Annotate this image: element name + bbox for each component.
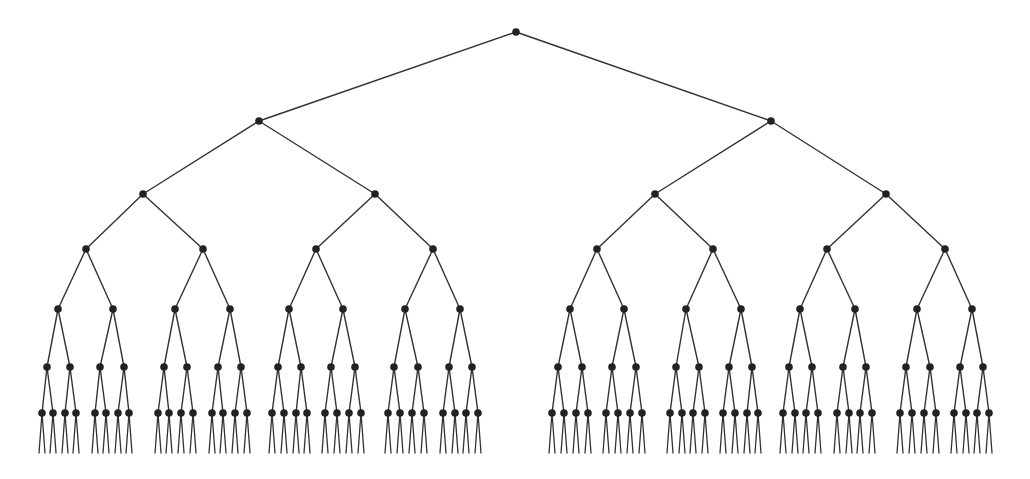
leaf-stub xyxy=(576,413,579,453)
tree-node xyxy=(429,245,437,253)
leaf-stub xyxy=(723,413,726,453)
tree-edge xyxy=(42,367,47,413)
leaf-stub xyxy=(627,413,630,453)
leaf-stub xyxy=(322,413,325,453)
leaf-stub xyxy=(897,413,900,453)
tree-edges xyxy=(42,32,989,413)
leaf-stub xyxy=(977,413,980,453)
tree-node xyxy=(54,305,62,313)
tree-edge xyxy=(164,367,169,413)
leaf-stub xyxy=(126,413,129,453)
leaf-stub xyxy=(440,413,443,453)
tree-edge xyxy=(827,249,855,309)
tree-node xyxy=(82,245,90,253)
leaf-stub xyxy=(989,413,992,453)
tree-edge xyxy=(316,194,375,249)
tree-node xyxy=(737,305,745,313)
leaf-stub xyxy=(220,413,223,453)
tree-edge xyxy=(597,249,624,309)
tree-edge xyxy=(388,367,394,413)
tree-node xyxy=(468,363,476,371)
leaf-stub xyxy=(735,413,738,453)
tree-edge xyxy=(960,309,972,367)
leaf-stub xyxy=(346,413,349,453)
leaf-stub xyxy=(585,413,588,453)
tree-edge xyxy=(86,194,143,249)
leaf-stub xyxy=(158,413,161,453)
tree-node xyxy=(651,190,659,198)
tree-node xyxy=(268,409,276,417)
leaf-stub xyxy=(424,413,427,453)
leaf-stub xyxy=(181,413,184,453)
tree-nodes xyxy=(38,28,993,417)
tree-edge xyxy=(143,194,203,249)
tree-node xyxy=(572,409,580,417)
tree-node xyxy=(327,363,335,371)
tree-node xyxy=(672,363,680,371)
tree-edge xyxy=(806,367,812,413)
leaf-stub xyxy=(806,413,809,453)
tree-edge xyxy=(86,249,113,309)
tree-node xyxy=(120,363,128,371)
tree-edge xyxy=(516,32,771,121)
tree-edge xyxy=(449,309,460,367)
leaf-stub xyxy=(293,413,296,453)
tree-node xyxy=(439,409,447,417)
leaf-stub xyxy=(642,413,645,453)
leaf-stub xyxy=(223,413,226,453)
leaf-stub xyxy=(606,413,609,453)
binary-tree-graphic xyxy=(0,0,1030,479)
tree-node xyxy=(666,409,674,417)
tree-edge xyxy=(143,121,259,194)
tree-edge xyxy=(164,309,175,367)
leaf-stub xyxy=(552,413,555,453)
tree-node xyxy=(297,363,305,371)
tree-node xyxy=(602,409,610,417)
leaf-stub xyxy=(272,413,275,453)
tree-node xyxy=(43,363,51,371)
tree-node xyxy=(985,409,993,417)
tree-edge xyxy=(343,309,355,367)
leaf-stub xyxy=(304,413,307,453)
leaf-stub xyxy=(755,413,758,453)
tree-edge xyxy=(906,367,912,413)
leaf-stub xyxy=(235,413,238,453)
tree-edge xyxy=(954,367,960,413)
leaf-stub xyxy=(103,413,106,453)
leaf-stub xyxy=(73,413,76,453)
tree-node xyxy=(808,363,816,371)
tree-edge xyxy=(676,367,682,413)
tree-edge xyxy=(241,367,247,413)
tree-edge xyxy=(158,367,164,413)
leaf-stub xyxy=(720,413,723,453)
tree-node xyxy=(451,409,459,417)
leaf-stub xyxy=(818,413,821,453)
tree-node xyxy=(114,409,122,417)
tree-edge xyxy=(124,367,129,413)
leaf-stub xyxy=(106,413,109,453)
leaf-stub xyxy=(281,413,284,453)
tree-node xyxy=(474,409,482,417)
leaf-stub xyxy=(639,413,642,453)
tree-edge xyxy=(983,367,989,413)
tree-node xyxy=(243,409,251,417)
tree-node xyxy=(902,363,910,371)
leaf-stub xyxy=(986,413,989,453)
tree-edge xyxy=(670,367,676,413)
tree-node xyxy=(274,363,282,371)
tree-edge xyxy=(924,367,930,413)
leaf-stub xyxy=(337,413,340,453)
tree-edge xyxy=(789,367,795,413)
tree-node xyxy=(462,409,470,417)
tree-edge xyxy=(606,367,612,413)
tree-edge xyxy=(900,367,906,413)
leaf-stub xyxy=(732,413,735,453)
tree-edge xyxy=(752,367,758,413)
leaf-stub xyxy=(549,413,552,453)
tree-node xyxy=(408,409,416,417)
tree-node xyxy=(384,409,392,417)
leaf-stub xyxy=(92,413,95,453)
leaf-stub xyxy=(837,413,840,453)
leaf-stub xyxy=(954,413,957,453)
leaf-stub xyxy=(561,413,564,453)
